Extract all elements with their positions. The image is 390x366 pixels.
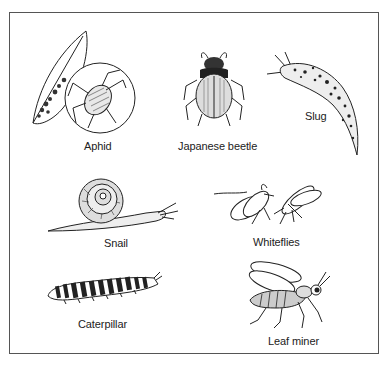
- leaf-miner-label: Leaf miner: [268, 335, 319, 347]
- whiteflies-label: Whiteflies: [253, 236, 300, 248]
- japanese-beetle-label: Japanese beetle: [178, 140, 257, 152]
- whiteflies-illustration: [212, 180, 332, 230]
- aphid-label: Aphid: [84, 140, 112, 152]
- caterpillar-illustration: [44, 270, 162, 305]
- aphid-leaf-illustration: [28, 28, 138, 138]
- snail-label: Snail: [104, 237, 128, 249]
- slug-label: Slug: [305, 110, 327, 122]
- snail-illustration: [46, 175, 181, 235]
- leaf-miner-illustration: [246, 258, 336, 333]
- slug-illustration: [265, 50, 365, 160]
- japanese-beetle-illustration: [180, 48, 250, 128]
- caterpillar-label: Caterpillar: [78, 318, 127, 330]
